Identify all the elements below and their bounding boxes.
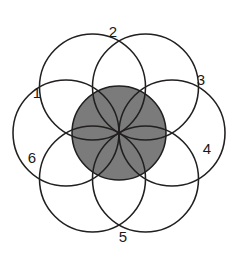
- circle-5-label: 5: [119, 228, 127, 245]
- circle-4-label: 4: [203, 140, 211, 157]
- circle-6-label: 6: [28, 149, 36, 166]
- six-circle-rosette-diagram: 1 2 3 4 5 6: [0, 0, 234, 261]
- circle-3-label: 3: [197, 71, 205, 88]
- circle-1-label: 1: [33, 84, 41, 101]
- diagram-canvas: 1 2 3 4 5 6: [0, 0, 234, 261]
- circle-2-label: 2: [109, 23, 117, 40]
